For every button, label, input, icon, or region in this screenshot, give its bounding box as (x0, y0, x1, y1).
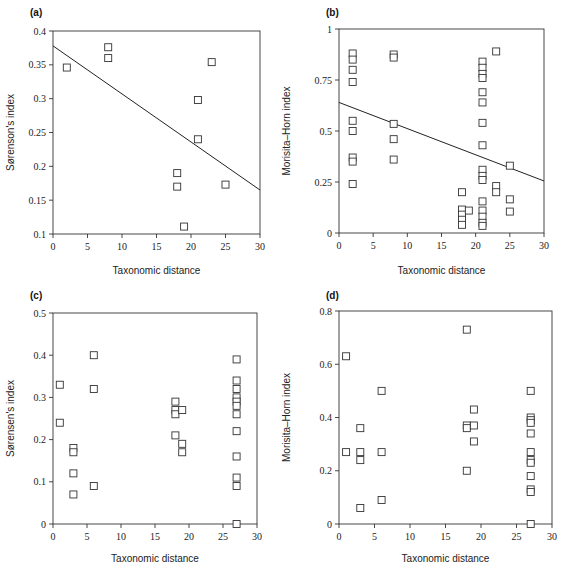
data-point (90, 385, 97, 392)
plot-frame (339, 311, 552, 524)
data-point (174, 170, 181, 177)
data-point (179, 407, 186, 414)
y-tick-label: 0.3 (34, 93, 47, 104)
data-point (378, 497, 385, 504)
data-point (459, 221, 466, 228)
data-point (70, 449, 77, 456)
data-point (378, 387, 385, 394)
y-tick-label: 0.35 (29, 59, 47, 70)
x-tick-label: 30 (539, 240, 549, 251)
panel-label: (d) (326, 290, 339, 301)
data-point (172, 411, 179, 418)
data-point (233, 521, 240, 528)
data-point (527, 419, 534, 426)
data-point (349, 79, 356, 86)
x-tick-label: 5 (372, 531, 377, 542)
y-axis-title: Morisita–Horn index (281, 373, 292, 462)
data-point (357, 425, 364, 432)
y-tick-label: 0.6 (320, 359, 333, 370)
data-point (233, 428, 240, 435)
x-tick-label: 20 (186, 241, 196, 252)
y-tick-label: 0.5 (320, 126, 333, 137)
data-point (463, 326, 470, 333)
data-point (390, 136, 397, 143)
data-point (357, 505, 364, 512)
data-point (493, 189, 500, 196)
y-tick-label: 0.1 (34, 229, 47, 240)
data-point (349, 56, 356, 63)
x-tick-label: 0 (51, 241, 56, 252)
data-point (56, 419, 63, 426)
panel-d: (d)05101520253000.20.40.60.8Taxonomic di… (281, 290, 557, 564)
y-tick-label: 0 (41, 519, 46, 530)
data-point (506, 208, 513, 215)
x-axis-title: Taxonomic distance (402, 553, 490, 564)
y-tick-label: 0.1 (34, 476, 47, 487)
data-point (479, 176, 486, 183)
data-point (527, 521, 534, 528)
data-point (349, 128, 356, 135)
plot-frame (53, 313, 257, 524)
data-point (479, 74, 486, 81)
data-point (343, 353, 350, 360)
data-point (174, 183, 181, 190)
x-tick-label: 0 (51, 531, 56, 542)
data-point (470, 406, 477, 413)
data-point (470, 422, 477, 429)
y-tick-label: 0.25 (315, 177, 333, 188)
data-point (90, 483, 97, 490)
y-tick-label: 0.75 (315, 75, 333, 86)
x-tick-label: 10 (117, 241, 127, 252)
x-tick-label: 0 (337, 531, 342, 542)
x-tick-label: 15 (437, 240, 447, 251)
x-tick-label: 15 (152, 241, 162, 252)
data-point (479, 99, 486, 106)
x-axis-title: Taxonomic distance (113, 265, 201, 276)
x-axis-title: Taxonomic distance (111, 553, 199, 564)
y-tick-label: 0.3 (34, 392, 47, 403)
data-point (527, 459, 534, 466)
data-point (90, 352, 97, 359)
x-tick-label: 20 (476, 531, 486, 542)
data-point (179, 440, 186, 447)
data-point (105, 55, 112, 62)
y-tick-label: 0.5 (34, 308, 47, 319)
x-axis-title: Taxonomic distance (398, 265, 486, 276)
y-tick-label: 0.4 (320, 412, 333, 423)
data-point (181, 223, 188, 230)
panel-label: (b) (326, 7, 339, 18)
data-point (357, 457, 364, 464)
data-point (527, 430, 534, 437)
x-tick-label: 25 (221, 241, 231, 252)
data-point (390, 156, 397, 163)
data-point (479, 119, 486, 126)
data-point (479, 89, 486, 96)
y-tick-label: 0 (327, 519, 332, 530)
y-tick-label: 0.4 (34, 350, 47, 361)
y-tick-label: 0.25 (29, 127, 47, 138)
data-point (222, 181, 229, 188)
y-axis-title: Sørenson's index (5, 94, 16, 171)
y-tick-label: 0.4 (34, 26, 47, 37)
data-point (233, 411, 240, 418)
data-point (105, 44, 112, 51)
data-point (343, 449, 350, 456)
data-point (194, 136, 201, 143)
data-point (349, 181, 356, 188)
data-point (465, 207, 472, 214)
x-tick-label: 10 (405, 531, 415, 542)
panel-b: (b)05101520253000.250.50.751Taxonomic di… (281, 7, 549, 276)
y-tick-label: 0.2 (34, 434, 47, 445)
data-point (233, 474, 240, 481)
data-point (493, 48, 500, 55)
data-point (349, 158, 356, 165)
x-tick-label: 10 (116, 531, 126, 542)
x-tick-label: 20 (471, 240, 481, 251)
data-point (233, 377, 240, 384)
data-point (479, 142, 486, 149)
data-point (172, 432, 179, 439)
y-tick-label: 0.15 (29, 195, 47, 206)
data-point (479, 222, 486, 229)
data-point (470, 438, 477, 445)
x-tick-label: 15 (441, 531, 451, 542)
